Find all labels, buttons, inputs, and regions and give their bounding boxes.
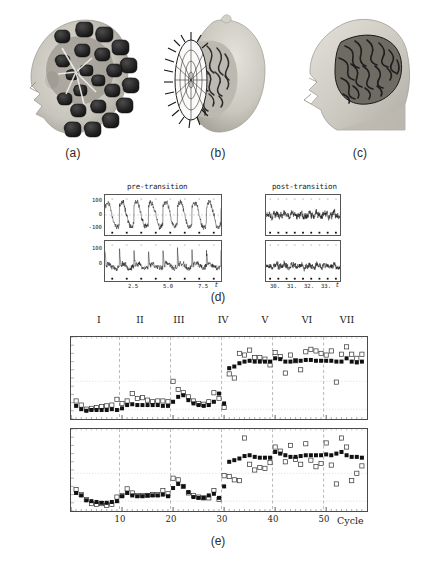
svg-text:v: v bbox=[269, 243, 271, 247]
panel-d: pre-transition post-transition vvvvvvvv … bbox=[0, 182, 435, 304]
panel-d-post-top-plot: vvvvvvvvv bbox=[265, 194, 341, 236]
panel-e-xlabel: Cycle bbox=[337, 515, 364, 526]
sensor-helmet-brain-svg bbox=[163, 8, 278, 143]
panel-c-caption: (c) bbox=[300, 146, 420, 160]
panel-e-region-I: I bbox=[84, 314, 114, 325]
panel-a-image bbox=[18, 8, 140, 143]
panel-d-post-xvar: t bbox=[336, 281, 339, 289]
panel-d-pre2-ytick-100: 100 bbox=[82, 245, 102, 251]
svg-text:v: v bbox=[140, 197, 142, 201]
panel-e-xtick-20: 20 bbox=[159, 514, 183, 524]
svg-text:v: v bbox=[269, 197, 271, 201]
panel-e-region-VII: VII bbox=[332, 314, 362, 325]
panel-e-xtick-40: 40 bbox=[261, 514, 285, 524]
panel-d-pre2-ytick-0: 0 bbox=[82, 260, 102, 266]
svg-text:v: v bbox=[302, 197, 304, 201]
panel-e-region-III: III bbox=[164, 314, 194, 325]
svg-text:v: v bbox=[302, 243, 304, 247]
head-brain-cutaway-svg bbox=[297, 8, 422, 143]
panel-d-pre-xtick-7-5: 7.5 bbox=[193, 283, 213, 289]
svg-text:v: v bbox=[213, 243, 215, 247]
panel-e-top-plot bbox=[70, 336, 368, 420]
panel-d-post-xtick-31: 31. bbox=[283, 283, 301, 289]
panel-d-post-title: post-transition bbox=[272, 182, 337, 191]
panel-e: I II III IV V VI VII 10 20 30 40 50 Cycl… bbox=[0, 312, 435, 562]
meg-sensor-head-svg bbox=[18, 8, 140, 143]
panel-c-image bbox=[297, 8, 422, 143]
panel-e-xtick-50: 50 bbox=[312, 514, 336, 524]
panel-e-xtick-10: 10 bbox=[108, 514, 132, 524]
panel-d-post-xtick-30: 30. bbox=[266, 283, 284, 289]
svg-text:v: v bbox=[294, 197, 296, 201]
svg-text:v: v bbox=[294, 243, 296, 247]
svg-text:v: v bbox=[169, 243, 171, 247]
panel-d-pre-top-plot: vvvvvvvv bbox=[104, 194, 222, 236]
panel-d-pre-ytick-neg100: -100 bbox=[78, 224, 102, 230]
panel-d-caption: (d) bbox=[188, 290, 248, 304]
svg-text:v: v bbox=[310, 243, 312, 247]
svg-text:v: v bbox=[213, 197, 215, 201]
svg-text:v: v bbox=[335, 243, 337, 247]
svg-text:v: v bbox=[140, 243, 142, 247]
panel-d-post-bottom-plot: vvvvvvvvv bbox=[265, 240, 341, 282]
panel-e-region-IV: IV bbox=[208, 314, 238, 325]
svg-text:v: v bbox=[198, 243, 200, 247]
panel-e-xtick-30: 30 bbox=[210, 514, 234, 524]
figure-root: (a) bbox=[0, 0, 435, 562]
svg-text:v: v bbox=[169, 197, 171, 201]
svg-text:v: v bbox=[126, 243, 128, 247]
svg-text:v: v bbox=[277, 243, 279, 247]
svg-text:v: v bbox=[126, 197, 128, 201]
panel-d-pre-xvar: t bbox=[215, 281, 218, 289]
panel-a-caption: (a) bbox=[13, 146, 133, 160]
svg-text:v: v bbox=[318, 243, 320, 247]
svg-text:v: v bbox=[155, 197, 157, 201]
svg-text:v: v bbox=[318, 197, 320, 201]
panel-d-pre-ytick-0: 0 bbox=[82, 211, 102, 217]
svg-text:v: v bbox=[155, 243, 157, 247]
panel-b-caption: (b) bbox=[158, 146, 278, 160]
svg-text:v: v bbox=[184, 197, 186, 201]
head-renderings-row: (a) bbox=[0, 0, 435, 170]
panel-d-pre-bottom-plot: vvvvvvvv bbox=[104, 240, 222, 282]
panel-e-region-VI: VI bbox=[292, 314, 322, 325]
panel-e-bottom-plot bbox=[70, 428, 368, 512]
panel-d-post-xtick-32: 32. bbox=[300, 283, 318, 289]
svg-text:v: v bbox=[111, 197, 113, 201]
svg-text:v: v bbox=[286, 197, 288, 201]
svg-text:v: v bbox=[111, 243, 113, 247]
svg-text:v: v bbox=[184, 243, 186, 247]
panel-d-pre-xtick-2-5: 2.5 bbox=[123, 283, 143, 289]
panel-e-caption: (e) bbox=[188, 534, 248, 548]
svg-text:v: v bbox=[286, 243, 288, 247]
svg-text:v: v bbox=[310, 197, 312, 201]
panel-d-post-xtick-33: 33. bbox=[317, 283, 335, 289]
panel-b-image bbox=[163, 8, 278, 143]
panel-d-pre-title: pre-transition bbox=[127, 182, 187, 191]
panel-e-region-II: II bbox=[125, 314, 155, 325]
svg-text:v: v bbox=[327, 243, 329, 247]
panel-e-region-V: V bbox=[250, 314, 280, 325]
panel-d-pre-ytick-100: 100 bbox=[82, 197, 102, 203]
svg-text:v: v bbox=[198, 197, 200, 201]
panel-d-pre-xtick-5-0: 5.0 bbox=[158, 283, 178, 289]
svg-text:v: v bbox=[335, 197, 337, 201]
svg-text:v: v bbox=[277, 197, 279, 201]
svg-text:v: v bbox=[327, 197, 329, 201]
